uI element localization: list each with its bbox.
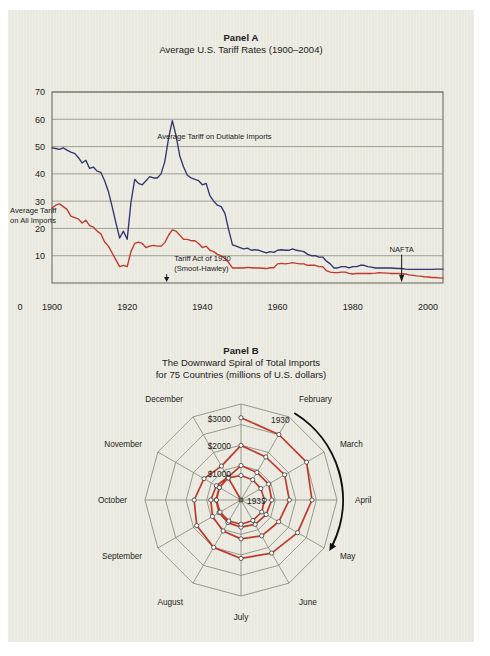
spiral-point: [270, 498, 274, 502]
month-label: February: [299, 395, 333, 404]
annotation-smoot-line1: Tariff Act of 1930: [174, 254, 230, 263]
month-label: September: [102, 552, 142, 561]
panel-a-title: Average U.S. Tariff Rates (1900–2004): [8, 44, 474, 56]
spiral-point: [239, 463, 243, 467]
spiral-point: [283, 473, 287, 477]
x-tick-label: 1960: [268, 302, 288, 312]
radial-tick-label: $1000: [208, 469, 232, 479]
spiral-center-point: [239, 498, 243, 502]
month-label: August: [158, 598, 184, 607]
y-tick-label: 30: [35, 197, 45, 207]
x-tick-label: 1980: [343, 302, 363, 312]
series-line: [52, 121, 443, 270]
spiral-point: [270, 551, 274, 555]
spiral-point: [239, 443, 243, 447]
annotation-dutiable: Average Tariff on Dutiable Imports: [157, 132, 272, 141]
spiral-point: [239, 537, 243, 541]
x-tick-label: 1920: [117, 302, 137, 312]
spiral-point: [221, 529, 225, 533]
spiral-point: [310, 498, 314, 502]
spiral-point: [277, 432, 281, 436]
panel-a-header: Panel A Average U.S. Tariff Rates (1900–…: [8, 32, 474, 56]
spiral-point: [287, 498, 291, 502]
panel-b-svg: $3000$2000$100019301933JanuaryFebruaryMa…: [8, 392, 474, 637]
y-tick-label: 40: [35, 169, 45, 179]
radial-tick-label: $2000: [208, 441, 232, 451]
month-label: December: [145, 395, 183, 404]
month-label: March: [340, 440, 363, 449]
spiral-point: [251, 478, 255, 482]
spiral-point: [304, 460, 308, 464]
panel-b-chart: $3000$2000$100019301933JanuaryFebruaryMa…: [8, 392, 474, 637]
x-tick-label: 2000: [418, 302, 438, 312]
month-label: November: [104, 440, 142, 449]
spiral-point: [210, 514, 214, 518]
spiral-point: [239, 522, 243, 526]
spiral-point: [212, 545, 216, 549]
spiral-point: [267, 482, 271, 486]
nafta-arrow-head: [399, 275, 404, 282]
spiral-point: [259, 486, 263, 490]
direction-arrow-arc: [295, 414, 343, 545]
spiral-point: [239, 556, 243, 560]
x-tick-label: 1900: [42, 302, 62, 312]
spiral-series: [192, 416, 314, 561]
x-tick-label: 1940: [192, 302, 212, 312]
spiral-point: [264, 512, 268, 516]
panel-b-title-line2: for 75 Countries (millions of U.S. dolla…: [8, 369, 474, 381]
figure-page: Panel A Average U.S. Tariff Rates (1900–…: [0, 0, 490, 656]
spiral-point: [264, 455, 268, 459]
month-label: October: [98, 496, 127, 505]
spiral-point: [209, 498, 213, 502]
spiral-point: [227, 519, 231, 523]
spiral-point: [219, 464, 223, 468]
figure-plate: Panel A Average U.S. Tariff Rates (1900–…: [8, 10, 474, 642]
direction-arrow: [295, 414, 343, 552]
radial-tick-label: $3000: [208, 414, 232, 424]
annotation-all-imports-line2: on All Imports: [10, 216, 56, 225]
y-tick-label: 60: [35, 115, 45, 125]
panel-a-chart: 102030405060700190019201940196019802000A…: [8, 72, 474, 322]
x-origin-label: 0: [17, 302, 22, 312]
annotation-all-imports-line1: Average Tariff: [10, 206, 57, 215]
spiral-point: [192, 498, 196, 502]
spiral-point: [255, 470, 259, 474]
month-label: June: [299, 598, 317, 607]
spiral-point: [195, 523, 199, 527]
spiral-point: [260, 534, 264, 538]
panel-a-label: Panel A: [8, 32, 474, 44]
spiral-line: [194, 418, 312, 559]
spiral-point: [202, 477, 206, 481]
y-tick-label: 10: [35, 251, 45, 261]
panel-b-title-line1: The Downward Spiral of Total Imports: [8, 357, 474, 369]
plot-frame: [52, 92, 443, 283]
year-label-inner: 1933: [247, 496, 266, 506]
spiral-point: [239, 416, 243, 420]
spiral-point: [214, 498, 218, 502]
panel-a-svg: 102030405060700190019201940196019802000A…: [8, 72, 474, 322]
series-line: [52, 204, 443, 278]
spiral-point: [253, 522, 257, 526]
annotation-nafta: NAFTA: [389, 245, 414, 254]
panel-b-header: Panel B The Downward Spiral of Total Imp…: [8, 345, 474, 381]
spiral-point: [239, 473, 243, 477]
y-tick-label: 50: [35, 142, 45, 152]
year-label-outer: 1930: [271, 415, 290, 425]
y-tick-label: 70: [35, 87, 45, 97]
spiral-point: [260, 510, 264, 514]
spiral-point: [251, 518, 255, 522]
spiral-point: [218, 510, 222, 514]
panel-b-label: Panel B: [8, 345, 474, 357]
spiral-point: [217, 485, 221, 489]
month-label: April: [355, 496, 372, 505]
spiral-point: [295, 531, 299, 535]
smoot-arrow-head: [164, 277, 169, 282]
month-label: May: [340, 552, 356, 561]
annotation-smoot-line2: (Smoot-Hawley): [174, 264, 229, 273]
spiral-point: [277, 520, 281, 524]
month-label: July: [234, 613, 249, 622]
